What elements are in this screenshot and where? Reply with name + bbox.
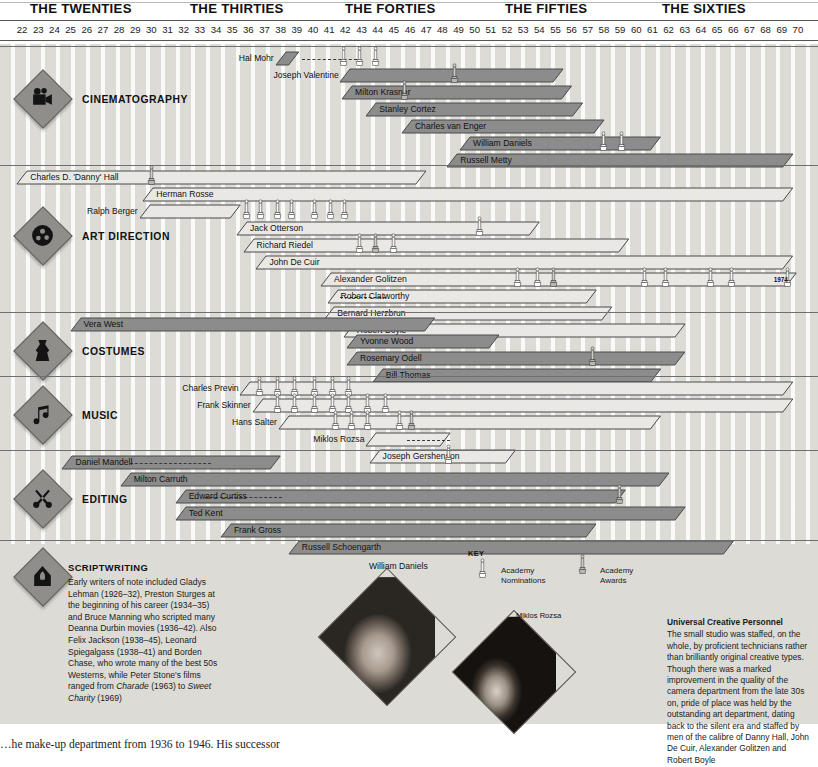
timeline-bar[interactable]: [121, 473, 669, 486]
academy-nomination-icon: [355, 46, 364, 67]
year-tick-56: 56: [566, 24, 577, 35]
section-divider: [0, 376, 818, 377]
scriptwriting-heading: SCRIPTWRITING: [68, 562, 148, 573]
year-tick-23: 23: [33, 24, 44, 35]
year-tick-29: 29: [130, 24, 141, 35]
academy-nomination-icon: [599, 131, 608, 152]
right-note-body: The small studio was staffed, on the who…: [667, 629, 809, 764]
decade-label-0: THE TWENTIES: [30, 1, 132, 16]
timeline-bar-label: Charles van Enger: [415, 121, 486, 132]
year-tick-54: 54: [534, 24, 545, 35]
timeline-bar-label: John De Cuir: [269, 257, 319, 268]
academy-nomination-icon: [326, 199, 335, 220]
year-tick-34: 34: [211, 24, 222, 35]
timeline-bar[interactable]: [240, 382, 793, 395]
academy-nomination-icon: [290, 393, 299, 414]
academy-nomination-icon: [513, 267, 522, 288]
miklos-rozsa-caption: Miklos Rozsa: [516, 611, 561, 620]
academy-nomination-icon: [727, 267, 736, 288]
section-title-cinematography: CINEMATOGRAPHY: [82, 94, 188, 105]
year-tick-59: 59: [615, 24, 626, 35]
section-title-editing: EDITING: [82, 494, 128, 505]
academy-award-icon: [147, 165, 156, 186]
timeline-bar-label: Yvonne Wood: [360, 336, 413, 347]
academy-nomination-icon: [273, 393, 282, 414]
year-tick-53: 53: [518, 24, 529, 35]
timeline-bar-label: Vera West: [84, 319, 124, 330]
section-divider: [0, 46, 818, 47]
year-tick-63: 63: [679, 24, 690, 35]
year-tick-50: 50: [469, 24, 480, 35]
timeline-bar[interactable]: [140, 205, 240, 218]
header-rule-bottom: [0, 40, 818, 41]
film-reel-icon: [22, 215, 62, 255]
year-tick-57: 57: [582, 24, 593, 35]
academy-nomination-icon: [310, 199, 319, 220]
academy-nomination-icon: [242, 199, 251, 220]
section-title-costumes: COSTUMES: [82, 346, 145, 357]
year-tick-70: 70: [793, 24, 804, 35]
timeline-bar-label: Richard Riedel: [257, 240, 313, 251]
year-tick-66: 66: [728, 24, 739, 35]
year-tick-22: 22: [17, 24, 28, 35]
timeline-bar[interactable]: [143, 188, 793, 201]
timeline-bar-label: Joseph Valentine: [273, 70, 338, 81]
timeline-bar[interactable]: [276, 52, 299, 65]
chart-bottom-border: [0, 540, 818, 541]
timeline-bar-label: Hans Salter: [232, 417, 277, 428]
section-divider: [0, 312, 818, 313]
timeline-bar-label: Charles Previn: [182, 383, 238, 394]
year-tick-36: 36: [243, 24, 254, 35]
footer-text: …he make-up department from 1936 to 1946…: [0, 738, 280, 751]
academy-nomination-icon: [340, 199, 349, 220]
year-tick-43: 43: [356, 24, 367, 35]
academy-nomination-icon: [273, 199, 282, 220]
music-note-icon: [22, 394, 62, 434]
section-divider: [0, 450, 818, 451]
timeline-bar-dashed-gap: [407, 440, 451, 441]
timeline-bar-label: Charles D. 'Danny' Hall: [30, 172, 118, 183]
timeline-bar[interactable]: [71, 318, 435, 331]
key-award-line1: Academy: [600, 566, 633, 575]
year-tick-65: 65: [712, 24, 723, 35]
academy-nomination-icon: [661, 267, 670, 288]
year-tick-25: 25: [65, 24, 76, 35]
academy-nomination-icon: [533, 267, 542, 288]
academy-nomination-icon: [617, 131, 626, 152]
scriptwriting-tail: (1969): [95, 693, 122, 703]
year-tick-39: 39: [292, 24, 303, 35]
academy-award-icon: [588, 346, 597, 367]
section-title-music: MUSIC: [82, 410, 118, 421]
academy-nomination-icon: [355, 233, 364, 254]
timeline-bar-label: Frank Skinner: [197, 400, 251, 411]
year-tick-38: 38: [275, 24, 286, 35]
scriptwriting-text: Early writers of note included Gladys Le…: [68, 577, 217, 691]
year-tick-31: 31: [162, 24, 173, 35]
academy-award-icon: [371, 233, 380, 254]
academy-award-icon: [615, 484, 624, 505]
timeline-bar[interactable]: [176, 507, 685, 520]
timeline-bar-dashed-gap: [302, 59, 357, 60]
year-tick-28: 28: [114, 24, 125, 35]
academy-nomination-icon: [389, 233, 398, 254]
academy-nomination-icon: [475, 216, 484, 237]
year-tick-32: 32: [178, 24, 189, 35]
year-axis: 2223242526272829303132333435363738394041…: [0, 22, 818, 40]
dress-icon: [22, 330, 62, 370]
key-nom-line1: Academy: [501, 566, 534, 575]
year-tick-69: 69: [776, 24, 787, 35]
timeline-bar-label: Miklos Rozsa: [313, 434, 364, 445]
timeline-bar-label: Frank Gross: [234, 525, 281, 536]
decade-header-row: THE TWENTIESTHE THIRTIESTHE FORTIESTHE F…: [0, 0, 818, 22]
year-tick-58: 58: [599, 24, 610, 35]
decade-label-4: THE SIXTIES: [662, 1, 746, 16]
year-tick-49: 49: [453, 24, 464, 35]
academy-award-icon: [400, 80, 409, 101]
right-note-heading: Universal Creative Personnel: [667, 617, 812, 628]
year-tick-52: 52: [502, 24, 513, 35]
timeline-bar-label: Daniel Mandell: [75, 457, 132, 468]
year-tick-48: 48: [437, 24, 448, 35]
timeline-bar-label: Jack Otterson: [250, 223, 303, 234]
year-end-marker: 1974: [774, 276, 788, 283]
timeline-bar-label: Ted Kent: [189, 508, 223, 519]
